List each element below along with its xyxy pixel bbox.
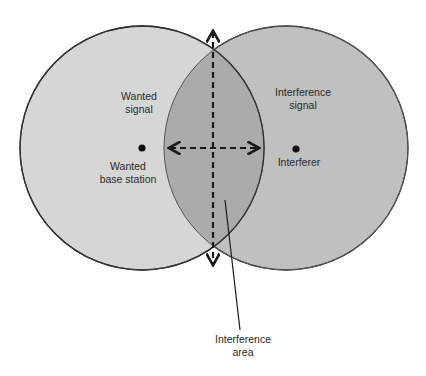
interference-diagram: Wanted signal Wanted base station Interf… bbox=[0, 0, 426, 376]
wanted-signal-label-1: Wanted bbox=[121, 90, 157, 102]
wanted-signal-label-2: signal bbox=[125, 103, 152, 115]
interference-area-label-2: area bbox=[232, 346, 253, 358]
wanted-base-station-label-2: base station bbox=[100, 173, 157, 185]
interferer-dot bbox=[292, 145, 299, 152]
wanted-base-station-dot bbox=[138, 144, 145, 151]
interferer-label: Interferer bbox=[278, 156, 321, 168]
wanted-base-station-label-1: Wanted bbox=[110, 160, 146, 172]
interference-signal-label-2: signal bbox=[289, 99, 316, 111]
interference-signal-label-1: Interference bbox=[275, 86, 331, 98]
interference-area-label-1: Interference bbox=[215, 333, 271, 345]
